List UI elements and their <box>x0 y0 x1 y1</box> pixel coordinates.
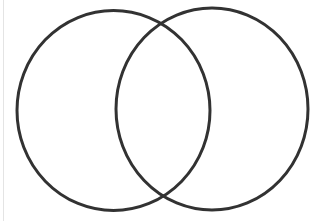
venn-diagram-canvas <box>0 0 322 221</box>
venn-diagram <box>0 0 322 221</box>
right-circle <box>116 8 308 210</box>
left-circle <box>17 11 210 211</box>
